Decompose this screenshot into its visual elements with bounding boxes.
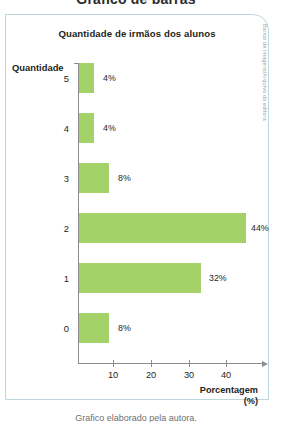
bar-value-label: 32% bbox=[209, 273, 227, 283]
x-axis-line bbox=[78, 363, 264, 364]
chart-title: Quantidade de irmãos dos alunos bbox=[6, 28, 268, 39]
bar bbox=[79, 163, 109, 193]
x-axis-tick-label: 20 bbox=[146, 370, 156, 380]
bar bbox=[79, 113, 94, 143]
bar-category-label: 1 bbox=[64, 273, 69, 284]
bar-category-label: 3 bbox=[64, 173, 69, 184]
x-axis-title-unit: (%) bbox=[200, 396, 258, 407]
x-axis-tick bbox=[189, 360, 190, 367]
image-credit-text: Banco de imagens/Arquivo da editora bbox=[262, 24, 268, 174]
x-axis-tick-label: 10 bbox=[108, 370, 118, 380]
x-axis-title: Porcentagem (%) bbox=[200, 385, 258, 407]
x-axis-tick-label: 40 bbox=[221, 370, 231, 380]
bar bbox=[79, 213, 246, 243]
figure-frame: Quantidade de irmãos dos alunos Quantida… bbox=[5, 14, 269, 400]
x-axis-tick bbox=[113, 360, 114, 367]
bar-value-label: 8% bbox=[118, 323, 131, 333]
bar-category-label: 2 bbox=[64, 223, 69, 234]
x-axis-arrow-icon bbox=[262, 361, 268, 367]
x-axis-tick bbox=[151, 360, 152, 367]
x-axis-title-text: Porcentagem bbox=[200, 385, 258, 396]
bar-value-label: 44% bbox=[251, 223, 269, 233]
bar-value-label: 4% bbox=[103, 123, 116, 133]
bar-category-label: 4 bbox=[64, 123, 69, 134]
bar bbox=[79, 63, 94, 93]
x-axis-tick bbox=[226, 360, 227, 367]
bar-category-label: 5 bbox=[64, 73, 69, 84]
bar-value-label: 4% bbox=[103, 73, 116, 83]
bar-value-label: 8% bbox=[118, 173, 131, 183]
y-axis-title: Quantidade bbox=[12, 62, 64, 73]
cropped-section-title: Gráfico de barras bbox=[0, 0, 272, 4]
x-axis-tick-label: 30 bbox=[184, 370, 194, 380]
bar bbox=[79, 313, 109, 343]
cropped-figure-caption: Grafico elaborado pela autora. bbox=[0, 413, 272, 422]
plot-area: 5 4% 4 4% 3 8% 2 44% 1 32% bbox=[78, 63, 268, 363]
bar bbox=[79, 263, 201, 293]
bar-category-label: 0 bbox=[64, 323, 69, 334]
